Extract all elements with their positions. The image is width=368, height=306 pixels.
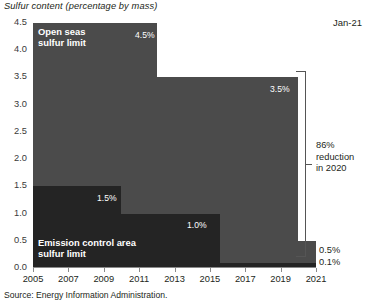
- end-label-0-1: 0.1%: [319, 256, 340, 268]
- x-tick-label: 2007: [58, 274, 79, 284]
- y-tick-label: 4.5: [14, 18, 27, 27]
- series-label-open-seas-line2: sulfur limit: [38, 37, 86, 48]
- y-tick-label: 0.5: [14, 236, 27, 245]
- end-value-labels: 0.5% 0.1%: [319, 244, 340, 268]
- x-tick-label: 2009: [93, 274, 114, 284]
- x-tick-label: 2005: [23, 274, 44, 284]
- x-tick-label: 2011: [129, 274, 149, 284]
- y-tick-label: 3.5: [14, 73, 27, 82]
- reduction-annotation-line2: reduction: [316, 152, 366, 164]
- x-tick-label: 2017: [235, 274, 256, 284]
- y-tick-label: 3.0: [14, 100, 27, 109]
- series-label-open-seas-line1: Open seas: [38, 26, 85, 37]
- y-tick-label: 2.5: [14, 127, 27, 136]
- y-tick-label: 4.0: [14, 46, 27, 55]
- y-tick-label: 1.5: [14, 182, 27, 191]
- x-tick-label: 2021: [306, 274, 327, 284]
- x-tick-label: 2015: [200, 274, 221, 284]
- reduction-annotation-line3: in 2020: [316, 163, 366, 175]
- reduction-annotation-line1: 86%: [316, 140, 366, 152]
- y-tick-label: 0.0: [14, 263, 27, 272]
- series-label-eca-line2: sulfur limit: [38, 248, 86, 259]
- series-label-eca-line1: Emission control area: [38, 237, 136, 248]
- plot-area: Open seas sulfur limit Emission control …: [33, 23, 316, 268]
- value-label-4-5: 4.5%: [135, 31, 155, 40]
- y-tick-label: 2.0: [14, 154, 27, 163]
- reduction-annotation-text: 86% reduction in 2020: [316, 140, 366, 175]
- x-axis: 2005 2007 2009 2011 2013 2015 2017 2019 …: [33, 268, 316, 288]
- source-note: Source: Energy Information Administratio…: [4, 290, 167, 300]
- value-label-3-5: 3.5%: [270, 85, 290, 94]
- reduction-bracket: [296, 71, 308, 257]
- chart-date-stamp: Jan-21: [333, 17, 362, 28]
- chart-title: Sulfur content (percentage by mass): [4, 1, 157, 11]
- value-label-1-5: 1.5%: [97, 194, 117, 203]
- y-axis: 4.5 4.0 3.5 3.0 2.5 2.0 1.5 1.0 0.5 0.0: [0, 23, 30, 268]
- x-tick-label: 2013: [164, 274, 185, 284]
- y-tick-label: 1.0: [14, 209, 27, 218]
- x-tick-label: 2019: [270, 274, 291, 284]
- value-label-1-0: 1.0%: [187, 221, 207, 230]
- end-label-0-5: 0.5%: [319, 244, 340, 256]
